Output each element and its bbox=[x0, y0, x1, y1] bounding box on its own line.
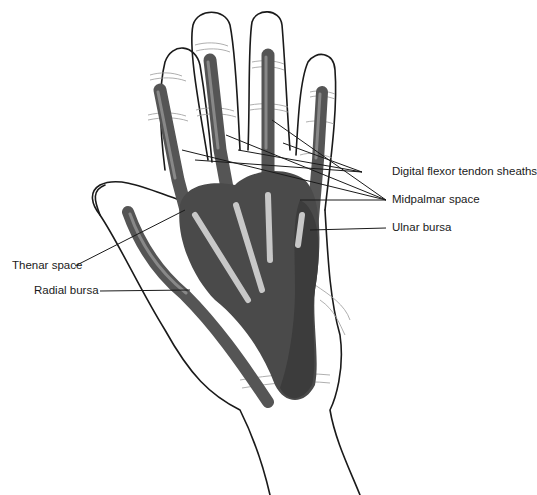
label-midpalmar-space: Midpalmar space bbox=[392, 194, 480, 206]
label-thenar-space: Thenar space bbox=[12, 260, 82, 272]
label-ulnar-bursa: Ulnar bursa bbox=[392, 222, 451, 234]
label-radial-bursa: Radial bursa bbox=[34, 285, 99, 297]
label-digital-flexor-tendon-sheaths: Digital flexor tendon sheaths bbox=[392, 166, 537, 178]
